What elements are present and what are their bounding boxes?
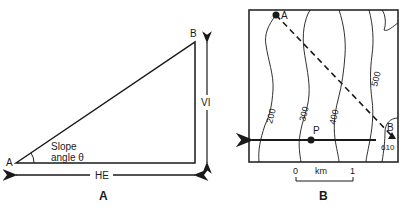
contour-label-200: 200 xyxy=(264,107,278,124)
panel-a: A B Slope angle θ HE VI A xyxy=(6,28,210,203)
slope-angle-arc xyxy=(31,153,34,163)
contour-hill-top xyxy=(382,10,398,30)
vi-label: VI xyxy=(201,97,210,108)
point-b-label: B xyxy=(190,28,197,39)
spot-height-label: 610 xyxy=(381,143,395,152)
contour-label-400: 400 xyxy=(327,108,341,125)
contour-label-500: 500 xyxy=(369,70,383,87)
contour-label-300: 300 xyxy=(297,105,311,122)
slope-triangle xyxy=(16,42,195,163)
he-label: HE xyxy=(95,170,109,181)
scale-end-label: 1 xyxy=(350,166,355,176)
map-point-a-label: A xyxy=(281,10,288,21)
point-p-marker xyxy=(308,137,315,144)
slope-diagram: A B Slope angle θ HE VI A 200 300 400 50… xyxy=(0,0,406,208)
slope-label-line2: angle θ xyxy=(51,152,84,163)
point-a-marker xyxy=(273,12,280,19)
panel-b-caption: B xyxy=(319,189,328,203)
scale-unit-label: km xyxy=(315,166,327,176)
panel-b: 200 300 400 500 A P B 610 0 km 1 B xyxy=(249,10,398,203)
point-a-label: A xyxy=(6,157,13,168)
scale-bar xyxy=(296,177,353,181)
panel-a-caption: A xyxy=(99,189,108,203)
map-point-b-label: B xyxy=(387,122,394,133)
map-point-p-label: P xyxy=(313,125,320,136)
scale-start-label: 0 xyxy=(293,166,298,176)
slope-label-line1: Slope xyxy=(51,141,77,152)
